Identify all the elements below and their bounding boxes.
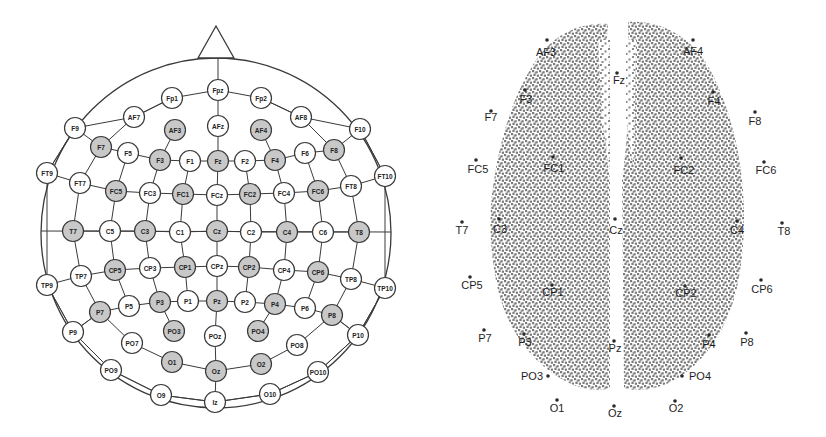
electrode-dot-icon [613,217,617,221]
source-electrode-po3: PO3 [521,370,550,382]
electrode-label: C1 [176,229,185,236]
source-electrode-fc6: FC6 [756,160,777,176]
electrode-f5: F5 [118,143,139,164]
source-electrode-af3: AF3 [536,38,556,58]
electrode-afz: AFz [208,116,229,137]
electrode-label: AF3 [169,127,182,134]
electrode-label: CP1 [542,286,563,298]
electrode-dot-icon [551,155,555,159]
electrode-label: F7 [485,111,498,123]
electrode-fz: Fz [208,151,229,172]
electrode-label: O9 [157,392,166,399]
electrode-f3: F3 [150,150,171,171]
electrode-po7: PO7 [122,333,143,354]
electrode-label: Fz [613,74,625,86]
source-electrode-oz: Oz [608,404,622,419]
electrode-label: FT8 [345,183,357,190]
electrode-fp1: Fp1 [162,88,183,109]
electrode-label: TP9 [41,282,53,289]
electrode-label: FC2 [674,164,695,176]
electrode-fc6: FC6 [308,181,329,202]
electrode-label: P10 [352,332,364,339]
electrode-po9: PO9 [101,360,122,381]
electrode-label: CP5 [109,267,122,274]
electrode-p6: P6 [295,298,316,319]
electrode-label: P7 [478,332,491,344]
electrode-t8: T8 [349,222,370,243]
figure-canvas: FpzFp1Fp2AF7AF8F9F10AF3AFzAF4F7F5F3F1FzF… [0,0,826,437]
electrode-dot-icon [546,374,550,378]
electrode-p9: P9 [63,322,84,343]
electrode-po10: PO10 [308,362,329,383]
electrode-dot-icon [474,158,478,162]
source-electrode-o2: O2 [669,399,684,414]
electrode-label: Pz [609,342,622,354]
electrode-label: TP10 [377,285,393,292]
electrode-f7: F7 [91,137,112,158]
electrode-c5: C5 [100,221,121,242]
electrode-label: Pz [213,298,221,305]
right-hemisphere-cloud [622,22,744,390]
electrode-fp2: Fp2 [251,88,272,109]
electrode-pz: Pz [207,291,228,312]
electrode-p7: P7 [90,302,111,323]
electrode-label: Fp2 [255,95,267,103]
electrode-label: FC6 [312,188,325,195]
electrode-label: FT7 [74,180,86,187]
electrode-p4: P4 [265,294,286,315]
midline-gap [610,60,622,370]
electrode-label: FC2 [244,191,257,198]
electrode-label: Iz [212,399,218,406]
electrode-dot-icon [497,217,501,221]
electrode-dot-icon [744,331,748,335]
electrode-cp3: CP3 [140,258,161,279]
electrode-label: C3 [141,228,150,235]
electrode-cp6: CP6 [308,262,329,283]
electrode-label: Oz [608,407,622,419]
source-electrode-cz: Cz [609,217,622,236]
electrode-label: P4 [271,301,279,308]
electrode-label: Fp1 [166,95,178,103]
electrode-label: P3 [156,299,164,306]
electrode-oz: Oz [206,361,227,382]
electrode-f8: F8 [324,140,345,161]
electrode-label: FC1 [544,162,565,174]
electrode-label: F7 [97,144,105,151]
electrode-label: F3 [156,157,164,164]
electrode-ft7: FT7 [70,173,91,194]
electrode-ft9: FT9 [37,163,58,184]
electrode-tp7: TP7 [71,266,92,287]
electrode-af4: AF4 [251,120,272,141]
electrode-cp2: CP2 [239,257,260,278]
nose-triangle-icon [198,26,234,58]
electrode-cz: Cz [207,221,228,242]
electrode-label: P6 [301,305,309,312]
electrode-label: T8 [778,225,791,237]
electrode-label: CP6 [751,283,772,295]
electrode-label: O1 [550,402,565,414]
electrode-label: PO9 [104,367,117,374]
electrode-o10: O10 [260,384,281,405]
source-electrode-cp2: CP2 [675,284,696,299]
electrode-o1: O1 [162,352,183,373]
source-electrode-cp5: CP5 [461,275,482,291]
electrode-dot-icon [759,278,763,282]
electrode-dot-icon [545,38,549,42]
electrode-label: FT9 [41,170,53,177]
electrode-label: F8 [749,115,762,127]
source-electrode-fz: Fz [613,71,625,86]
electrode-f10: F10 [350,119,371,140]
electrode-fc2: FC2 [240,184,261,205]
electrode-label: C5 [106,228,115,235]
electrode-tp10: TP10 [375,278,396,299]
electrode-label: AFz [212,123,225,130]
source-electrode-cp6: CP6 [751,278,772,295]
electrode-label: FC6 [756,164,777,176]
source-electrode-cp1: CP1 [542,283,563,298]
electrode-label: C4 [283,229,292,236]
electrode-label: PO3 [521,370,543,382]
frontal-arc-line [75,98,172,128]
electrode-label: Cz [213,228,222,235]
electrode-iz: Iz [205,392,226,413]
electrode-label: P2 [241,299,249,306]
